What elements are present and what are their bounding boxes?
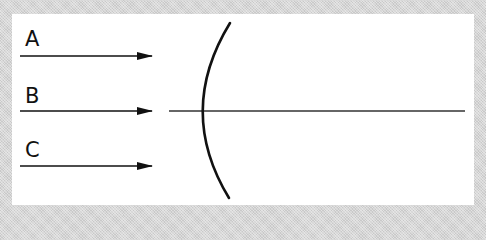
mirror-diagram: A B C (0, 0, 486, 215)
ray-label-c: C (25, 138, 40, 162)
ray-c: C (20, 138, 152, 166)
ray-a: A (20, 27, 152, 56)
ray-label-a: A (25, 27, 40, 51)
ray-b: B (20, 84, 152, 111)
ray-label-b: B (25, 84, 39, 108)
